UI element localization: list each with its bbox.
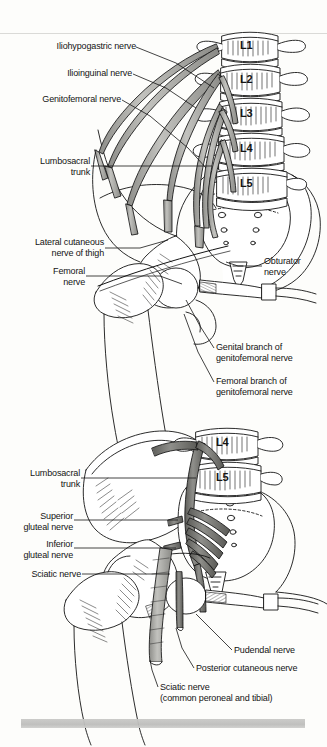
label-sciatic-nerve-lower: Sciatic nerve (common peroneal and tibia… [160, 682, 327, 703]
label-pudendal-nerve: Pudendal nerve [234, 645, 326, 656]
vertebra-label-l5-lower: L5 [216, 472, 238, 483]
label-obturator-nerve: Obturator nerve [264, 256, 326, 277]
label-inferior-gluteal-nerve: Inferior gluteal nerve [2, 539, 73, 560]
label-posterior-cutaneous-nerve: Posterior cutaneous nerve [196, 663, 327, 674]
label-sciatic-nerve-upper: Sciatic nerve [4, 569, 81, 580]
label-ilioinguinal-nerve: Ilioinguinal nerve [10, 68, 132, 79]
label-iliohypogastric-nerve: Iliohypogastric nerve [10, 41, 136, 52]
vertebra-label-l5: L5 [240, 178, 262, 189]
vertebra-label-l3: L3 [240, 108, 262, 119]
vertebra-label-l2: L2 [240, 74, 262, 85]
label-lateral-cutaneous-nerve-of-thigh: Lateral cutaneous nerve of thigh [6, 237, 104, 258]
label-superior-gluteal-nerve: Superior gluteal nerve [2, 511, 73, 532]
label-femoral-nerve: Femoral nerve [10, 266, 85, 287]
label-femoral-branch-of-genitofemoral-nerve: Femoral branch of genitofemoral nerve [216, 376, 327, 397]
vertebra-label-l1: L1 [240, 40, 262, 51]
label-genital-branch-of-genitofemoral-nerve: Genital branch of genitofemoral nerve [216, 342, 327, 363]
leader-posterior-cutaneous [176, 628, 194, 668]
label-lumbosacral-trunk-lower: Lumbosacral trunk [4, 468, 80, 489]
vertebra-label-l4-lower: L4 [216, 437, 238, 448]
label-lumbosacral-trunk-upper: Lumbosacral trunk [8, 156, 90, 177]
page-footer-bar [21, 719, 305, 728]
vertebra-label-l4: L4 [240, 143, 262, 154]
leader-pudendal [196, 614, 232, 650]
figure-page: Iliohypogastric nerve Ilioinguinal nerve… [0, 0, 327, 747]
label-genitofemoral-nerve: Genitofemoral nerve [6, 94, 121, 105]
anatomy-illustration [0, 0, 327, 747]
